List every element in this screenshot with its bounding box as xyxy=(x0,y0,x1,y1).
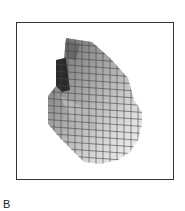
panel-label: B xyxy=(3,198,10,210)
shaded-region xyxy=(40,30,150,170)
mesh-plot xyxy=(0,0,185,211)
